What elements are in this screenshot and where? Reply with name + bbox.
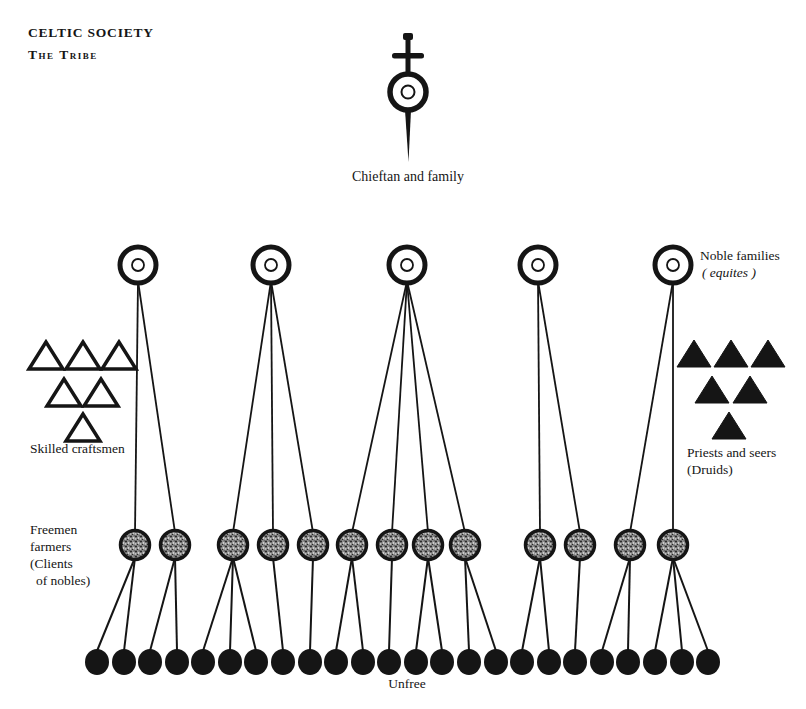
edge-noble-to-freeman: [538, 281, 580, 533]
noble-family-symbol: [120, 247, 156, 283]
edge-freeman-to-unfree: [655, 558, 673, 652]
edge-freeman-to-unfree: [540, 558, 549, 652]
freemen-farmers-label-line1: Freemen: [30, 523, 77, 538]
unfree-symbol: [191, 649, 215, 675]
unfree-symbol: [351, 649, 375, 675]
skilled-craftsman-symbol: [102, 342, 136, 369]
chieftain-circle: [390, 74, 426, 110]
edge-freeman-to-unfree: [175, 558, 177, 652]
edge-noble-to-freeman: [271, 281, 273, 533]
druid-symbol: [695, 376, 729, 403]
priests-and-seers-label: Priests and seers: [687, 446, 776, 461]
chieftain-sword-crossguard: [392, 53, 424, 59]
unfree-symbol: [670, 649, 694, 675]
freeman-farmer-symbol: [378, 531, 407, 560]
edge-noble-to-freeman: [233, 281, 271, 533]
edge-noble-to-freeman: [138, 281, 175, 533]
unfree-symbol: [298, 649, 322, 675]
celtic-society-diagram-page: CELTIC SOCIETY The Tribe Chieftan and fa…: [0, 0, 806, 709]
noble-family-symbol: [655, 247, 691, 283]
noble-family-symbol: [389, 247, 425, 283]
freeman-farmer-symbol: [299, 531, 328, 560]
unfree-symbol: [457, 649, 481, 675]
freeman-farmer-symbol: [161, 531, 190, 560]
edge-freeman-to-unfree: [352, 558, 363, 652]
unfree-symbol: [590, 649, 614, 675]
edge-freeman-to-unfree: [203, 558, 233, 652]
noble-family-symbol: [253, 247, 289, 283]
skilled-craftsman-symbol: [66, 342, 100, 369]
skilled-craftsman-symbol: [29, 342, 63, 369]
edge-noble-to-freeman: [135, 281, 138, 533]
unfree-symbol: [643, 649, 667, 675]
edge-freeman-to-unfree: [273, 558, 283, 652]
unfree-symbol: [218, 649, 242, 675]
edge-freeman-to-unfree: [522, 558, 540, 652]
freeman-farmer-symbol: [566, 531, 595, 560]
freeman-farmer-symbol: [659, 531, 688, 560]
tribe-structure-diagram: [0, 0, 806, 709]
edge-noble-to-freeman: [407, 281, 428, 533]
page-subtitle: The Tribe: [28, 48, 98, 63]
freeman-farmer-symbol: [414, 531, 443, 560]
edge-freeman-to-unfree: [428, 558, 442, 652]
edge-freeman-to-unfree: [233, 558, 256, 652]
edge-noble-to-freeman: [407, 281, 465, 533]
unfree-symbol: [377, 649, 401, 675]
freemen-farmers-label-line3: (Clients: [30, 557, 73, 572]
unfree-symbol: [537, 649, 561, 675]
edge-freeman-to-unfree: [416, 558, 428, 652]
unfree-symbol: [324, 649, 348, 675]
freeman-farmer-symbol: [616, 531, 645, 560]
noble-families-label: Noble families: [700, 249, 780, 264]
freemen-farmers-label-line4: of nobles): [36, 574, 90, 589]
unfree-symbol: [165, 649, 189, 675]
druid-symbol: [751, 340, 785, 367]
edge-freeman-to-unfree: [389, 558, 392, 652]
skilled-craftsman-symbol: [84, 379, 118, 406]
unfree-symbol: [696, 649, 720, 675]
skilled-craftsman-symbol: [66, 414, 100, 441]
freeman-farmer-symbol: [219, 531, 248, 560]
edge-freeman-to-unfree: [575, 558, 580, 652]
page-title: CELTIC SOCIETY: [28, 26, 154, 41]
unfree-symbol: [85, 649, 109, 675]
unfree-symbol: [484, 649, 508, 675]
edge-freeman-to-unfree: [465, 558, 469, 652]
edge-freeman-to-unfree: [465, 558, 496, 652]
unfree-label: Unfree: [388, 677, 425, 692]
unfree-symbol: [430, 649, 454, 675]
edge-noble-to-freeman: [538, 281, 540, 533]
druid-symbol: [677, 340, 711, 367]
freeman-farmer-symbol: [451, 531, 480, 560]
freeman-farmer-symbol: [526, 531, 555, 560]
chieftain-sword-blade: [405, 110, 411, 162]
edge-freeman-to-unfree: [336, 558, 352, 652]
edge-freeman-to-unfree: [602, 558, 630, 652]
edge-freeman-to-unfree: [310, 558, 313, 652]
edge-noble-to-freeman: [630, 281, 673, 533]
freeman-farmer-symbol: [259, 531, 288, 560]
edge-freeman-to-unfree: [230, 558, 233, 652]
unfree-symbol: [404, 649, 428, 675]
druid-symbol: [714, 340, 748, 367]
freeman-farmer-symbol: [338, 531, 367, 560]
druids-label: (Druids): [687, 463, 733, 478]
unfree-symbol: [271, 649, 295, 675]
skilled-craftsmen-label: Skilled craftsmen: [30, 442, 125, 457]
unfree-symbol: [563, 649, 587, 675]
chieftain-sword-pommel: [403, 33, 413, 40]
unfree-symbol: [616, 649, 640, 675]
edge-noble-to-freeman: [271, 281, 313, 533]
freeman-farmer-symbol: [121, 531, 150, 560]
unfree-symbol: [510, 649, 534, 675]
unfree-symbol: [138, 649, 162, 675]
unfree-symbol: [244, 649, 268, 675]
druid-symbol: [733, 376, 767, 403]
skilled-craftsman-symbol: [47, 379, 81, 406]
edge-freeman-to-unfree: [628, 558, 630, 652]
druid-symbol: [712, 412, 746, 439]
unfree-symbol: [112, 649, 136, 675]
noble-family-symbol: [520, 247, 556, 283]
noble-families-equites-label: ( equites ): [702, 266, 756, 281]
